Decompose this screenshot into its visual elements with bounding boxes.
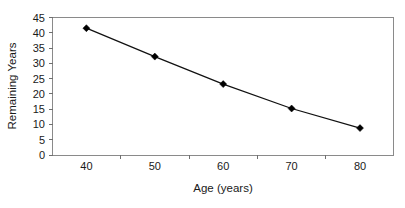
y-tick-label: 15 <box>33 103 45 115</box>
y-tick-label: 0 <box>39 149 45 161</box>
line-chart: 45 40 35 30 25 20 15 10 5 0 40 50 60 70 … <box>0 0 405 208</box>
y-tick-label: 20 <box>33 88 45 100</box>
y-tick-label: 45 <box>33 12 45 24</box>
x-tick-label: 70 <box>285 160 297 172</box>
y-tick-label: 25 <box>33 73 45 85</box>
x-tick-label: 50 <box>149 160 161 172</box>
y-tick-label: 30 <box>33 57 45 69</box>
y-tick-label: 35 <box>33 42 45 54</box>
x-tick-label: 80 <box>354 160 366 172</box>
y-tick-label: 5 <box>39 134 45 146</box>
chart-background <box>0 0 405 208</box>
y-tick-label: 40 <box>33 27 45 39</box>
x-axis-title: Age (years) <box>193 182 253 194</box>
y-tick-label: 10 <box>33 118 45 130</box>
x-tick-label: 60 <box>217 160 229 172</box>
y-axis-title: Remaining Years <box>6 42 18 129</box>
x-tick-label: 40 <box>80 160 92 172</box>
